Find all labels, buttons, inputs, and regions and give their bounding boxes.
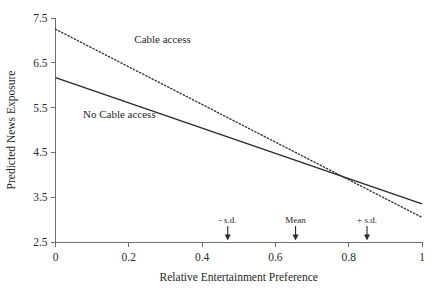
y-tick-label: 7.5	[33, 12, 48, 24]
series-line-no-cable-access	[56, 78, 423, 204]
chart-canvas: 2.53.54.55.56.57.500.20.40.60.81 - s.d.M…	[0, 0, 438, 292]
chart-series-layer	[56, 29, 423, 217]
annotation-arrow-head-plus-sd	[364, 235, 370, 241]
x-axis-title: Relative Entertainment Preference	[160, 271, 318, 283]
x-tick-label: 0.4	[195, 251, 210, 263]
x-tick-label: 0	[53, 251, 59, 263]
chart-annotation-layer: - s.d.Mean+ s.d.	[219, 215, 377, 241]
x-tick-label: 0.2	[122, 251, 137, 263]
y-tick-label: 6.5	[33, 57, 48, 69]
chart-label-layer: Cable accessNo Cable accessRelative Ente…	[5, 33, 318, 283]
x-tick-label: 1	[419, 251, 425, 263]
annotation-label-mean: Mean	[285, 215, 306, 225]
series-label-no-cable-access: No Cable access	[83, 108, 156, 120]
x-tick-label: 0.8	[342, 251, 357, 263]
annotation-label-plus-sd: + s.d.	[357, 215, 377, 225]
series-line-cable-access	[56, 29, 423, 217]
annotation-arrow-head-mean	[293, 235, 299, 241]
y-tick-label: 3.5	[33, 191, 48, 203]
chart-figure: 2.53.54.55.56.57.500.20.40.60.81 - s.d.M…	[0, 0, 438, 292]
annotation-arrow-head-minus-sd	[225, 235, 231, 241]
y-axis-title: Predicted News Exposure	[5, 71, 18, 190]
annotation-label-minus-sd: - s.d.	[219, 215, 237, 225]
y-tick-label: 5.5	[33, 102, 48, 114]
y-tick-label: 4.5	[33, 146, 48, 158]
y-tick-label: 2.5	[33, 236, 48, 248]
x-tick-label: 0.6	[268, 251, 283, 263]
series-label-cable-access: Cable access	[134, 33, 191, 45]
